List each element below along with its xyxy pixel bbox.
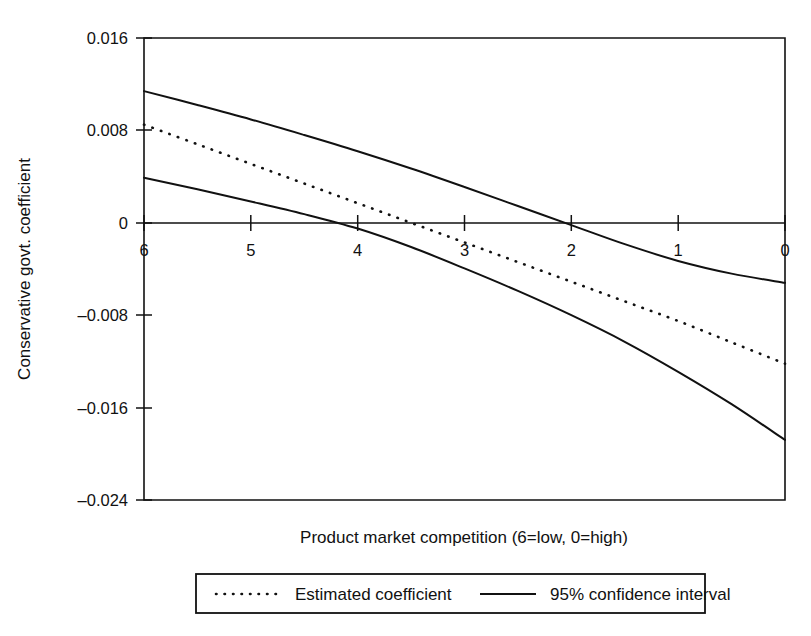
x-tick-label: 4 (353, 241, 362, 259)
y-tick-label: 0 (119, 214, 128, 232)
y-tick-label: –0.008 (78, 306, 128, 324)
x-tick-label: 2 (567, 241, 576, 259)
chart-figure: 0.016 0.008 0 –0.008 –0.016 –0.024 6 5 4… (0, 0, 811, 636)
x-tick-label: 6 (139, 241, 148, 259)
y-tick-label: 0.016 (87, 29, 128, 47)
x-tick-label: 5 (246, 241, 255, 259)
x-tick-label: 0 (780, 241, 789, 259)
x-tick-label: 1 (674, 241, 683, 259)
legend-label-confidence-interval: 95% confidence interval (550, 585, 731, 604)
y-tick-label: –0.024 (78, 491, 128, 509)
y-tick-label: 0.008 (87, 121, 128, 139)
legend-label-estimated-coefficient: Estimated coefficient (295, 585, 452, 604)
y-axis-title: Conservative govt. coefficient (15, 158, 34, 380)
y-tick-label: –0.016 (78, 399, 128, 417)
data-series-group (144, 91, 785, 440)
chart-legend: Estimated coefficient 95% confidence int… (196, 574, 731, 613)
x-axis-title: Product market competition (6=low, 0=hig… (300, 528, 628, 547)
y-axis-tick-labels: 0.016 0.008 0 –0.008 –0.016 –0.024 (78, 29, 128, 509)
confidence-interval-line-chart: 0.016 0.008 0 –0.008 –0.016 –0.024 6 5 4… (0, 0, 811, 636)
